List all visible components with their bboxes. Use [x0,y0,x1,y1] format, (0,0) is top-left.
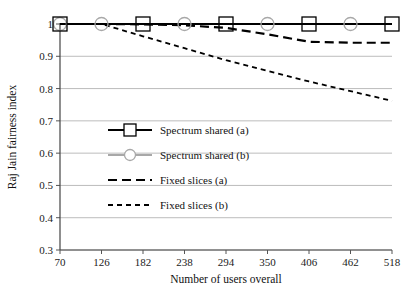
marker-square-spectrum-shared-a-70 [53,17,67,31]
gridlines-group: 0.30.40.50.60.70.80.91 [39,18,392,256]
series-group [60,24,392,101]
ytick-label-0.9: 0.9 [39,50,53,62]
xtick-label-406: 406 [301,256,318,268]
ytick-label-0.3: 0.3 [39,244,53,256]
xtick-label-518: 518 [384,256,401,268]
legend-label: Fixed slices (b) [160,199,228,212]
xtick-label-70: 70 [55,256,67,268]
ytick-label-1: 1 [48,18,54,30]
marker-square-spectrum-shared-a-182 [136,17,150,31]
ytick-label-0.5: 0.5 [39,179,53,191]
legend-label: Fixed slices (a) [160,174,228,187]
xtick-label-294: 294 [218,256,235,268]
marker-square-spectrum-shared-a-294 [219,17,233,31]
marker-square-spectrum-shared-a-406 [302,17,316,31]
x-axis-ticks-group: 70126182238294350406462518 [55,250,401,268]
fairness-index-line-chart: 0.30.40.50.60.70.80.91701261822382943504… [0,0,412,288]
xtick-label-126: 126 [93,256,110,268]
legend-item-spectrum-shared-a: Spectrum shared (a) [108,124,249,137]
legend-marker-circle [125,150,136,161]
chart-container: 0.30.40.50.60.70.80.91701261822382943504… [0,0,412,288]
legend-item-fixed-slices-b: Fixed slices (b) [108,199,228,212]
marker-square-spectrum-shared-a-518 [385,17,399,31]
series-line-fixed-slices-b [60,24,392,101]
xtick-label-238: 238 [176,256,193,268]
legend-label: Spectrum shared (b) [160,149,250,162]
legend-marker-square [124,124,136,136]
ytick-label-0.6: 0.6 [39,147,53,159]
y-axis-title: Raj Jain fairness index [6,85,19,190]
legend-item-spectrum-shared-b: Spectrum shared (b) [108,149,250,162]
legend: Spectrum shared (a)Spectrum shared (b)Fi… [108,124,250,212]
ytick-label-0.7: 0.7 [39,115,53,127]
xtick-label-462: 462 [342,256,359,268]
ytick-label-0.8: 0.8 [39,83,53,95]
xtick-label-182: 182 [135,256,152,268]
legend-label: Spectrum shared (a) [160,124,249,137]
ytick-label-0.4: 0.4 [39,212,53,224]
xtick-label-350: 350 [259,256,276,268]
x-axis-title: Number of users overall [170,273,281,285]
